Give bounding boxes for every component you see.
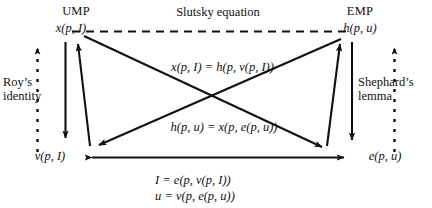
bottom-identity-line2: u = v(p, e(p, u)) (155, 189, 315, 205)
shephards-lemma-label-line2: lemma (358, 89, 432, 103)
expenditure-function-label: e(p, u) (350, 150, 420, 163)
indirect-utility-label: v(p, I) (15, 150, 85, 163)
bottom-identities-block: I = e(p, v(p, I)) u = v(p, e(p, u)) (155, 173, 315, 204)
slutsky-equation-label: Slutsky equation (138, 6, 298, 19)
roys-identity-label-line2: identity (3, 89, 47, 103)
shephards-lemma-label: Shephard’s lemma (358, 75, 432, 103)
diagonal-lower-equation-label: h(p, u) = x(p, e(p, u)) (138, 121, 310, 134)
bottom-identity-line1: I = e(p, v(p, I)) (155, 173, 315, 189)
ump-title: UMP (46, 5, 106, 18)
emp-function-label: h(p, u) (325, 22, 395, 35)
diagonal-upper-equation-label: x(p, I) = h(p, v(p, I)) (140, 61, 305, 74)
shephards-lemma-label-line1: Shephard’s (358, 75, 432, 89)
roys-identity-label-line1: Roy’s (3, 75, 47, 89)
emp-title: EMP (330, 5, 390, 18)
duality-diagram: UMP x(p, I) EMP h(p, u) Slutsky equation… (0, 0, 432, 208)
emp-up-arrow (327, 44, 340, 146)
ump-function-label: x(p, I) (36, 22, 106, 35)
roys-identity-label: Roy’s identity (3, 75, 47, 103)
ump-up-arrow (78, 44, 90, 146)
